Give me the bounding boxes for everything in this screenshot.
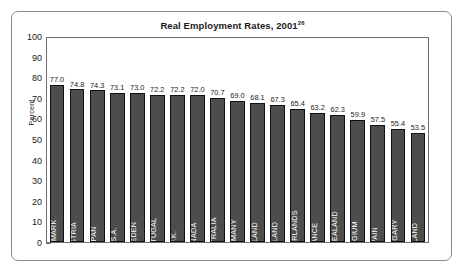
bar-category-label: DENMARK: [50, 219, 57, 242]
bar-value-label: 69.0: [230, 92, 244, 99]
plot-area: 77.0DENMARK74.8AUSTRIA74.3JAPAN73.1U.S.A…: [46, 37, 429, 243]
bar[interactable]: POLAND: [411, 133, 426, 242]
bar-value-label: 72.0: [190, 86, 204, 93]
bar-category-label: NETHERLANDS: [290, 210, 297, 242]
bar-value-label: 72.2: [150, 86, 164, 93]
y-axis-tick-label: 40: [20, 156, 42, 166]
bar[interactable]: CANADA: [190, 95, 205, 242]
bar-value-label: 74.8: [70, 81, 84, 88]
bar-category-label: U.K.: [170, 231, 177, 242]
bar[interactable]: U.K.: [170, 95, 185, 242]
bar-category-label: AUSTRIA: [70, 222, 77, 242]
y-axis-tick-label: 50: [20, 135, 42, 145]
bar-value-label: 65.4: [290, 100, 304, 107]
y-axis-tick-label: 30: [20, 176, 42, 186]
y-axis-tick-label: 80: [20, 73, 42, 83]
bar-category-label: FINLAND: [250, 222, 257, 242]
bar-value-label: 53.5: [411, 124, 425, 131]
y-axis-tick-label: 60: [20, 114, 42, 124]
y-axis-tick-mark: [46, 243, 51, 244]
bar-category-label: FRANCE: [310, 223, 317, 242]
bar-group[interactable]: 63.2FRANCE: [310, 38, 325, 242]
bar-category-label: IRELAND: [270, 222, 277, 242]
bar-category-label: AUSTRALIA: [210, 217, 217, 242]
bar-group[interactable]: 72.2U.K.: [170, 38, 185, 242]
bar-category-label: GERMANY: [230, 219, 237, 242]
bar-category-label: NEW ZEALAND: [331, 211, 338, 242]
bar-group[interactable]: 77.0DENMARK: [50, 38, 65, 242]
bar-category-label: POLAND: [411, 223, 418, 242]
bar-value-label: 55.4: [391, 120, 405, 127]
bar-category-label: PORTUGAL: [150, 217, 157, 242]
chart-figure: Real Employment Rates, 200126 Percent 01…: [0, 0, 465, 276]
bar-value-label: 68.1: [250, 94, 264, 101]
bar-group[interactable]: 62.3NEW ZEALAND: [330, 38, 345, 242]
bar-group[interactable]: 73.0SWEDEN: [130, 38, 145, 242]
bar-group[interactable]: 74.3JAPAN: [90, 38, 105, 242]
bar-group[interactable]: 59.9BELGIUM: [350, 38, 365, 242]
bar-category-label: HUNGARY: [391, 219, 398, 242]
y-axis-tick-label: 70: [20, 94, 42, 104]
bar[interactable]: FINLAND: [250, 103, 265, 242]
bar-value-label: 70.7: [210, 89, 224, 96]
bar-category-label: SWEDEN: [130, 222, 137, 242]
bar-series: 77.0DENMARK74.8AUSTRIA74.3JAPAN73.1U.S.A…: [47, 38, 428, 242]
bar[interactable]: IRELAND: [270, 105, 285, 242]
bar-group[interactable]: 67.3IRELAND: [270, 38, 285, 242]
bar[interactable]: AUSTRALIA: [210, 98, 225, 242]
bar-value-label: 63.2: [310, 104, 324, 111]
bar-group[interactable]: 68.1FINLAND: [250, 38, 265, 242]
bar[interactable]: NEW ZEALAND: [330, 115, 345, 242]
bar[interactable]: PORTUGAL: [150, 95, 165, 242]
bar[interactable]: JAPAN: [90, 90, 105, 242]
y-axis-tick-label: 20: [20, 197, 42, 207]
y-axis-tick-label: 100: [20, 32, 42, 42]
y-axis-tick-label: 10: [20, 217, 42, 227]
bar-value-label: 57.5: [371, 116, 385, 123]
bar-group[interactable]: 73.1U.S.A.: [110, 38, 125, 242]
bar-category-label: BELGIUM: [351, 221, 358, 242]
y-axis-tick-label: 90: [20, 53, 42, 63]
bar-group[interactable]: 72.0CANADA: [190, 38, 205, 242]
bar[interactable]: GERMANY: [230, 101, 245, 242]
bar-group[interactable]: 72.2PORTUGAL: [150, 38, 165, 242]
bar-value-label: 67.3: [270, 96, 284, 103]
chart-title-footnote-marker: 26: [298, 20, 305, 26]
bar-group[interactable]: 70.7AUSTRALIA: [210, 38, 225, 242]
chart-title: Real Employment Rates, 200126: [0, 20, 465, 31]
bar-group[interactable]: 55.4HUNGARY: [391, 38, 406, 242]
bar[interactable]: HUNGARY: [391, 129, 406, 242]
bar-value-label: 59.9: [351, 111, 365, 118]
bar[interactable]: NETHERLANDS: [290, 109, 305, 242]
bar[interactable]: FRANCE: [310, 113, 325, 242]
bar-value-label: 72.2: [170, 86, 184, 93]
bar-category-label: JAPAN: [90, 226, 97, 242]
chart-title-text: Real Employment Rates, 2001: [160, 20, 297, 31]
bar-category-label: CANADA: [190, 222, 197, 242]
bar[interactable]: SPAIN: [370, 125, 385, 242]
bar-value-label: 73.0: [130, 84, 144, 91]
bar-category-label: SPAIN: [371, 227, 378, 242]
bar-group[interactable]: 65.4NETHERLANDS: [290, 38, 305, 242]
bar-value-label: 74.3: [90, 82, 104, 89]
bar-value-label: 62.3: [331, 106, 345, 113]
bar[interactable]: BELGIUM: [350, 120, 365, 242]
bar[interactable]: AUSTRIA: [70, 89, 85, 242]
bar-group[interactable]: 53.5POLAND: [411, 38, 426, 242]
bar-value-label: 73.1: [110, 84, 124, 91]
bar[interactable]: SWEDEN: [130, 93, 145, 242]
bar-value-label: 77.0: [50, 76, 64, 83]
bar[interactable]: U.S.A.: [110, 93, 125, 242]
bar[interactable]: DENMARK: [50, 85, 65, 242]
bar-group[interactable]: 74.8AUSTRIA: [70, 38, 85, 242]
y-axis-tick-label: 0: [20, 238, 42, 248]
bar-category-label: U.S.A.: [110, 227, 117, 242]
bar-group[interactable]: 57.5SPAIN: [370, 38, 385, 242]
bar-group[interactable]: 69.0GERMANY: [230, 38, 245, 242]
